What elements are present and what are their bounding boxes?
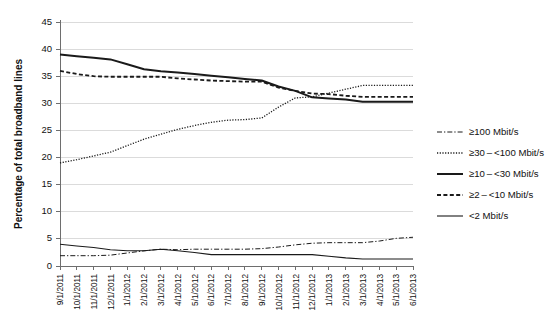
x-tick-label: 9/1/2011 [56, 274, 65, 306]
x-tick-label: 5/1/2013 [392, 274, 401, 306]
x-tick-label: 1/1/2013 [325, 274, 334, 306]
x-tick-label: 4/1/2012 [174, 274, 183, 306]
x-tick-label: 8/1/2012 [241, 274, 250, 306]
x-tick-label: 7/1/2012 [224, 274, 233, 306]
series-line-4 [60, 244, 413, 259]
legend-label-4: <2 Mbit/s [469, 210, 508, 221]
y-tick-label: 45 [41, 16, 52, 27]
y-tick-label: 20 [41, 151, 52, 162]
chart-legend: ≥100 Mbit/s≥30 – <100 Mbit/s≥10 – <30 Mb… [437, 126, 544, 221]
x-tick-label: 11/1/2012 [292, 274, 301, 310]
y-tick-label: 15 [41, 178, 52, 189]
x-tick-label: 3/1/2013 [359, 274, 368, 306]
x-tick-label: 10/1/2012 [275, 274, 284, 311]
gridlines-group [60, 22, 413, 239]
y-axis-ticks-group: 051015202530354045 [41, 16, 60, 271]
x-tick-label: 6/1/2013 [409, 274, 418, 306]
y-tick-label: 0 [47, 260, 52, 271]
data-series-group [60, 55, 413, 259]
y-tick-label: 30 [41, 97, 52, 108]
x-tick-label: 9/1/2012 [258, 274, 267, 306]
x-tick-label: 4/1/2013 [376, 274, 385, 306]
y-tick-label: 25 [41, 124, 52, 135]
x-tick-label: 3/1/2012 [157, 274, 166, 306]
x-tick-label: 10/1/2011 [73, 274, 82, 310]
x-tick-label: 2/1/2013 [342, 274, 351, 306]
x-tick-label: 11/1/2011 [90, 274, 99, 310]
legend-label-3: ≥2 – <10 Mbit/s [469, 189, 534, 200]
x-tick-label: 12/1/2012 [308, 274, 317, 311]
x-tick-label: 12/1/2011 [107, 274, 116, 310]
broadband-line-chart: 051015202530354045 9/1/201110/1/201111/1… [0, 0, 553, 329]
legend-label-2: ≥10 – <30 Mbit/s [469, 168, 539, 179]
x-tick-label: 2/1/2012 [140, 274, 149, 306]
y-tick-label: 10 [41, 205, 52, 216]
y-axis-title: Percentage of total broadband lines [13, 59, 24, 229]
y-tick-label: 40 [41, 43, 52, 54]
series-line-0 [60, 237, 413, 255]
x-axis-ticks-group: 9/1/201110/1/201111/1/201112/1/20111/1/2… [56, 266, 418, 310]
y-tick-label: 35 [41, 70, 52, 81]
legend-label-0: ≥100 Mbit/s [469, 126, 519, 137]
x-tick-label: 6/1/2012 [207, 274, 216, 306]
series-line-3 [60, 71, 413, 97]
legend-label-1: ≥30 – <100 Mbit/s [469, 147, 544, 158]
x-tick-label: 5/1/2012 [191, 274, 200, 306]
series-line-2 [60, 55, 413, 102]
chart-svg: 051015202530354045 9/1/201110/1/201111/1… [0, 0, 553, 329]
x-tick-label: 1/1/2012 [123, 274, 132, 306]
y-tick-label: 5 [47, 232, 52, 243]
